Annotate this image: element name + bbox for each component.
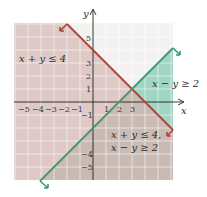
svg-text:−3: −3 [45, 105, 57, 114]
svg-text:1: 1 [86, 85, 91, 94]
svg-text:5: 5 [86, 34, 91, 43]
svg-text:1: 1 [104, 105, 109, 114]
svg-text:−2: −2 [58, 105, 70, 114]
svg-text:−4: −4 [32, 105, 44, 114]
arrow-x-minus-y-bottomleft-icon [40, 181, 48, 188]
label-x-plus-y-le-4: x + y ≤ 4 [19, 53, 66, 64]
svg-text:−5: −5 [81, 163, 93, 172]
label-x-minus-y-ge-2: x − y ≥ 2 [152, 78, 199, 89]
inequality-graph: x y −5 −4 −3 −2 −1 1 2 3 5 3 2 1 −1 −4 −… [0, 0, 207, 197]
x-tick-labels: −5 −4 −3 −2 −1 1 2 3 [18, 105, 135, 114]
svg-text:3: 3 [86, 59, 91, 68]
y-axis-label: y [82, 8, 89, 19]
x-axis-label: x [181, 105, 187, 116]
svg-text:2: 2 [86, 72, 91, 81]
svg-text:3: 3 [130, 105, 135, 114]
label-solution-line2: x − y ≥ 2 [111, 142, 158, 153]
label-solution-line1: x + y ≤ 4, [111, 129, 161, 140]
svg-text:−4: −4 [81, 150, 93, 159]
svg-text:2: 2 [117, 105, 122, 114]
svg-text:−5: −5 [18, 105, 30, 114]
arrow-x-minus-y-topright-icon [173, 48, 180, 55]
svg-text:−1: −1 [81, 111, 93, 120]
